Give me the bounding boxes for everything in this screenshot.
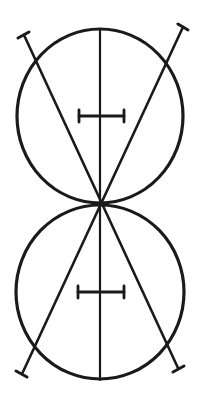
cap-top-left [18,32,29,38]
diagonal-right-top-to-left-bottom [22,27,183,374]
diagonals [22,27,183,374]
diagram-canvas [0,0,200,404]
double-circle-symbol [0,0,200,404]
cap-bottom-left [16,371,27,377]
crossbar-top [79,110,124,122]
